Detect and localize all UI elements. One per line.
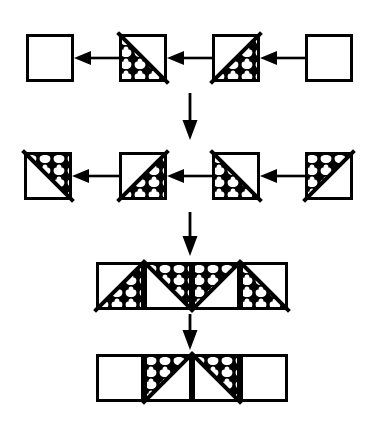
diagram-root (0, 0, 377, 428)
diagram-background (0, 0, 377, 428)
tile-transformation-diagram (0, 0, 377, 428)
